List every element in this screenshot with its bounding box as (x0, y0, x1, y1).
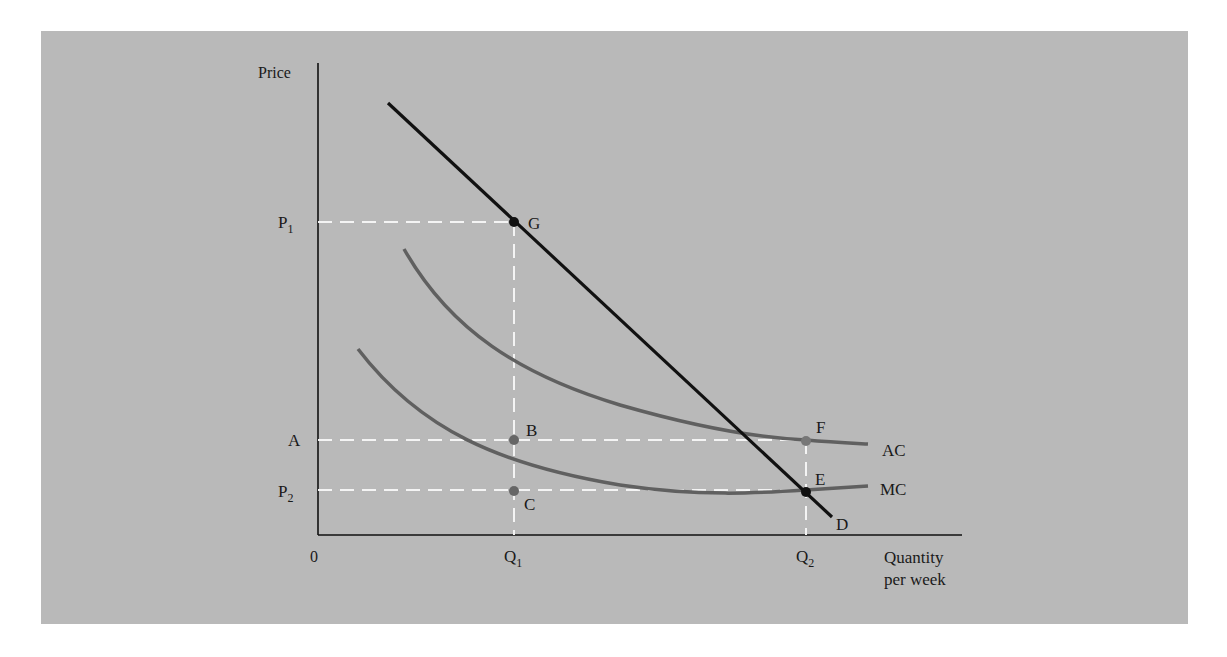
label-e: E (815, 470, 825, 489)
origin-label: 0 (310, 548, 318, 565)
point-c (509, 486, 519, 496)
label-b: B (526, 421, 537, 440)
x-axis-label-line1: Quantity (884, 548, 944, 567)
point-e (801, 487, 811, 497)
demand-line (388, 103, 832, 517)
point-f (801, 436, 811, 446)
x-axis-label-line2: per week (884, 570, 946, 589)
label-g: G (528, 214, 540, 233)
tick-p1: P1 (278, 213, 293, 236)
point-b (509, 435, 519, 445)
tick-p2: P2 (278, 482, 293, 505)
label-ac: AC (882, 441, 906, 460)
tick-q2: Q2 (796, 547, 814, 570)
chart-svg: Price 0 P1 A P2 Q1 Q2 Quantity per week … (0, 0, 1227, 657)
guide-lines (318, 222, 806, 535)
label-c: C (524, 495, 535, 514)
tick-a: A (288, 431, 301, 450)
label-d: D (836, 515, 848, 534)
label-f: F (816, 418, 825, 437)
point-g (509, 217, 519, 227)
label-mc: MC (880, 480, 906, 499)
tick-q1: Q1 (504, 547, 522, 570)
y-axis-label: Price (258, 64, 291, 81)
ac-curve (404, 249, 868, 444)
mc-curve (358, 349, 868, 493)
